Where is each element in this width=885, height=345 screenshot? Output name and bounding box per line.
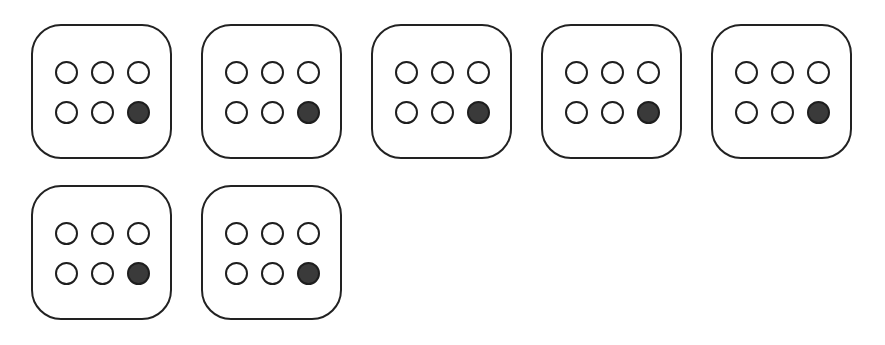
empty-dot-icon <box>261 61 284 84</box>
empty-dot-icon <box>431 101 454 124</box>
dot-cell-5 <box>711 24 852 159</box>
empty-dot-icon <box>601 61 624 84</box>
empty-dot-icon <box>261 101 284 124</box>
empty-dot-icon <box>127 61 150 84</box>
empty-dot-icon <box>225 262 248 285</box>
empty-dot-icon <box>91 262 114 285</box>
empty-dot-icon <box>807 61 830 84</box>
filled-dot-icon <box>807 101 830 124</box>
dot-cell-3 <box>371 24 512 159</box>
empty-dot-icon <box>225 222 248 245</box>
empty-dot-icon <box>261 222 284 245</box>
empty-dot-icon <box>431 61 454 84</box>
empty-dot-icon <box>55 101 78 124</box>
filled-dot-icon <box>467 101 490 124</box>
empty-dot-icon <box>735 101 758 124</box>
dot-cell-6 <box>31 185 172 320</box>
empty-dot-icon <box>565 61 588 84</box>
empty-dot-icon <box>297 61 320 84</box>
empty-dot-icon <box>467 61 490 84</box>
dot-cell-1 <box>31 24 172 159</box>
empty-dot-icon <box>637 61 660 84</box>
empty-dot-icon <box>55 61 78 84</box>
empty-dot-icon <box>771 101 794 124</box>
empty-dot-icon <box>225 101 248 124</box>
empty-dot-icon <box>297 222 320 245</box>
empty-dot-icon <box>127 222 150 245</box>
empty-dot-icon <box>735 61 758 84</box>
empty-dot-icon <box>395 101 418 124</box>
filled-dot-icon <box>637 101 660 124</box>
empty-dot-icon <box>771 61 794 84</box>
dot-cell-4 <box>541 24 682 159</box>
filled-dot-icon <box>127 262 150 285</box>
empty-dot-icon <box>91 61 114 84</box>
empty-dot-icon <box>55 262 78 285</box>
empty-dot-icon <box>225 61 248 84</box>
filled-dot-icon <box>297 262 320 285</box>
empty-dot-icon <box>91 101 114 124</box>
filled-dot-icon <box>297 101 320 124</box>
empty-dot-icon <box>395 61 418 84</box>
empty-dot-icon <box>565 101 588 124</box>
dot-cell-7 <box>201 185 342 320</box>
empty-dot-icon <box>55 222 78 245</box>
filled-dot-icon <box>127 101 150 124</box>
dot-cell-2 <box>201 24 342 159</box>
empty-dot-icon <box>261 262 284 285</box>
empty-dot-icon <box>91 222 114 245</box>
empty-dot-icon <box>601 101 624 124</box>
